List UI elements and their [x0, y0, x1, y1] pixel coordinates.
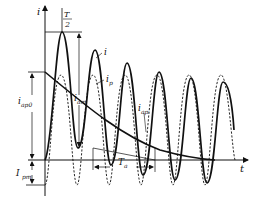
- periodic-peak-label: I: [15, 168, 20, 178]
- amplitude-sub: am: [77, 98, 87, 105]
- short-circuit-current-diagram: i t T 2 i i p i am i ap0 I pm i ap T a: [0, 0, 262, 205]
- aperiodic-component-sub: ap: [141, 108, 149, 116]
- x-axis-label: t: [240, 163, 245, 174]
- periodic-component-sub: p: [109, 79, 113, 87]
- half-period-numerator: T: [64, 10, 70, 19]
- periodic-peak-sub: pm: [22, 173, 32, 181]
- i-ap-leader: [144, 113, 146, 132]
- time-constant-sub: a: [124, 162, 128, 169]
- total-current-label: i: [104, 47, 107, 57]
- y-axis-label: i: [37, 6, 40, 17]
- aperiodic-initial-sub: ap0: [21, 101, 32, 109]
- half-period-denominator: 2: [64, 20, 70, 29]
- periodic-component-leader: [96, 80, 104, 84]
